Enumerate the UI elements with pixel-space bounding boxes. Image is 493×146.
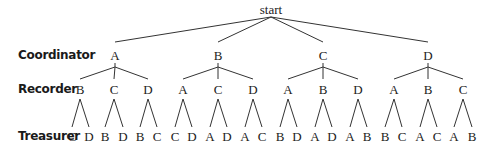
tree-edge xyxy=(218,67,253,79)
tree-edge xyxy=(463,99,472,127)
recorder-node: B xyxy=(424,83,433,96)
treasurer-node: C xyxy=(433,130,442,143)
tree-edge xyxy=(394,99,402,127)
tree-edge xyxy=(114,67,115,79)
root-node-start: start xyxy=(260,3,282,16)
treasurer-node: A xyxy=(310,130,319,143)
tree-edges xyxy=(0,0,493,146)
treasurer-node: A xyxy=(449,130,458,143)
tree-edge xyxy=(271,17,428,42)
tree-edge xyxy=(350,99,358,127)
tree-edge xyxy=(394,67,428,79)
tree-edge xyxy=(183,99,192,127)
tree-edge xyxy=(420,99,428,127)
tree-edge xyxy=(72,99,80,127)
tree-edge xyxy=(210,99,218,127)
tree-edge xyxy=(245,99,253,127)
treasurer-node: C xyxy=(68,130,77,143)
tree-edge xyxy=(80,99,89,127)
treasurer-node: D xyxy=(118,130,127,143)
tree-edge xyxy=(358,99,367,127)
tree-edge xyxy=(218,99,227,127)
treasurer-node: B xyxy=(468,130,477,143)
level-label-recorder: Recorder xyxy=(18,82,77,96)
recorder-node: B xyxy=(76,83,85,96)
recorder-node: C xyxy=(214,83,223,96)
tree-edge xyxy=(428,67,463,79)
tree-edge xyxy=(428,99,437,127)
treasurer-node: A xyxy=(205,130,214,143)
treasurer-node: B xyxy=(381,130,390,143)
tree-edge xyxy=(148,99,157,127)
treasurer-node: D xyxy=(187,130,196,143)
coordinator-node: A xyxy=(110,49,119,62)
recorder-node: C xyxy=(110,83,119,96)
tree-edge xyxy=(315,99,323,127)
treasurer-node: C xyxy=(258,130,267,143)
tree-edge xyxy=(280,99,288,127)
tree-edge xyxy=(115,67,148,79)
treasurer-node: D xyxy=(292,130,301,143)
recorder-node: B xyxy=(319,83,328,96)
treasurer-node: D xyxy=(222,130,231,143)
recorder-node: A xyxy=(178,83,187,96)
treasurer-node: A xyxy=(240,130,249,143)
tree-edge xyxy=(114,99,123,127)
tree-edge xyxy=(454,99,463,127)
coordinator-node: C xyxy=(319,49,328,62)
recorder-node: A xyxy=(283,83,292,96)
tree-edge xyxy=(175,99,183,127)
treasurer-node: A xyxy=(345,130,354,143)
tree-edge xyxy=(183,67,218,79)
recorder-node: D xyxy=(143,83,152,96)
tree-edge xyxy=(385,99,394,127)
treasurer-node: D xyxy=(327,130,336,143)
recorder-node: A xyxy=(389,83,398,96)
treasurer-node: B xyxy=(101,130,110,143)
treasurer-node: D xyxy=(84,130,93,143)
recorder-node: D xyxy=(248,83,257,96)
treasurer-node: B xyxy=(136,130,145,143)
tree-edge xyxy=(105,99,114,127)
treasurer-node: B xyxy=(363,130,372,143)
treasurer-node: C xyxy=(153,130,162,143)
coordinator-node: D xyxy=(423,49,432,62)
tree-edge xyxy=(253,99,262,127)
treasurer-node: B xyxy=(276,130,285,143)
level-label-coordinator: Coordinator xyxy=(18,48,95,62)
recorder-node: C xyxy=(459,83,468,96)
treasurer-node: C xyxy=(398,130,407,143)
tree-edge xyxy=(323,67,358,79)
tree-edge xyxy=(140,99,148,127)
tree-diagram: Coordinator Recorder Treasurer start ABC… xyxy=(0,0,493,146)
treasurer-node: C xyxy=(171,130,180,143)
coordinator-node: B xyxy=(214,49,223,62)
recorder-node: D xyxy=(353,83,362,96)
tree-edge xyxy=(288,99,297,127)
tree-edge xyxy=(80,67,115,79)
tree-edge xyxy=(288,67,323,79)
tree-edge xyxy=(115,17,271,42)
treasurer-node: A xyxy=(415,130,424,143)
tree-edge xyxy=(323,99,332,127)
